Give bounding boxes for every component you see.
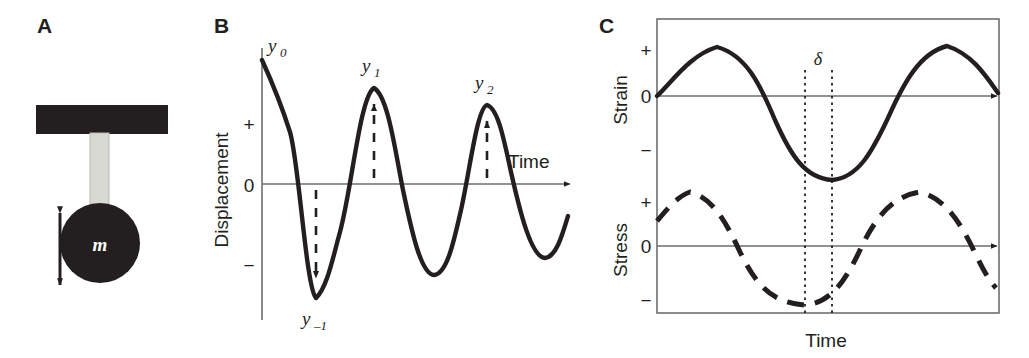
panel-c-stress-label: Stress	[610, 223, 631, 277]
panel-b-ytick-zero: 0	[244, 175, 255, 196]
panel-c-strain-tick-zero: 0	[641, 86, 652, 107]
panel-a-letter: A	[37, 14, 52, 37]
panel-b-ytick-minus: −	[243, 255, 254, 276]
support-bar	[36, 105, 168, 134]
panel-b-label-y2: y 2	[473, 72, 494, 97]
panel-b-displacement-curve	[262, 60, 568, 298]
svg-text:2: 2	[487, 82, 494, 97]
panel-c-frame	[657, 19, 999, 313]
panel-b-letter: B	[214, 14, 229, 37]
panel-c-xlabel: Time	[805, 330, 847, 351]
svg-text:y: y	[266, 35, 277, 56]
panel-c-strain-label: Strain	[610, 75, 631, 125]
figure-svg: A m B Displacement + 0 − Time y 0	[0, 0, 1029, 358]
mass-label: m	[93, 234, 108, 255]
svg-text:y: y	[473, 72, 484, 93]
panel-c-stress-tick-zero: 0	[641, 236, 652, 257]
panel-a-group: A m	[36, 14, 168, 285]
panel-c-strain-curve	[657, 46, 998, 180]
figure-container: A m B Displacement + 0 − Time y 0	[0, 0, 1029, 358]
panel-b-label-y1: y 1	[360, 55, 381, 80]
panel-c-strain-tick-minus: −	[640, 140, 651, 161]
panel-b-group: B Displacement + 0 − Time y 0 y –1 y 1	[211, 14, 570, 333]
panel-b-label-yneg1: y –1	[300, 308, 327, 333]
svg-text:–1: –1	[313, 318, 327, 333]
svg-text:y: y	[360, 55, 371, 76]
svg-text:0: 0	[280, 45, 287, 60]
panel-c-delta-symbol: δ	[814, 49, 823, 69]
panel-b-label-y0: y 0	[266, 35, 287, 60]
svg-text:y: y	[300, 308, 311, 329]
svg-text:1: 1	[374, 65, 381, 80]
panel-c-stress-curve	[657, 192, 996, 305]
panel-c-strain-tick-plus: +	[640, 40, 651, 61]
panel-c-stress-tick-minus: −	[640, 290, 651, 311]
panel-b-ylabel: Displacement	[211, 132, 232, 248]
panel-c-stress-tick-plus: +	[640, 192, 651, 213]
panel-b-xlabel: Time	[508, 151, 550, 172]
panel-b-ytick-plus: +	[243, 114, 254, 135]
panel-c-group: C Strain Stress + 0 − + 0 − δ Time	[599, 14, 999, 351]
panel-c-letter: C	[599, 14, 614, 37]
